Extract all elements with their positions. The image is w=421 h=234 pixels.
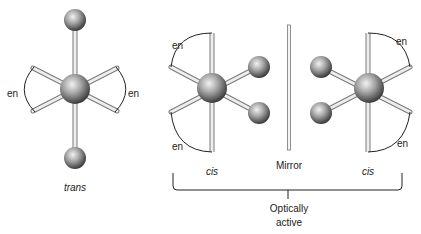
cis-isomer-left: en en cis — [171, 33, 270, 177]
en-label: en — [172, 141, 183, 152]
en-arc-right — [115, 67, 126, 112]
metal-ball — [60, 74, 90, 104]
bracket-label-line2: active — [276, 217, 303, 228]
en-label: en — [128, 88, 139, 99]
ligand-ball-lower — [310, 102, 332, 124]
ligand-ball-bottom — [64, 147, 86, 169]
en-arc-left — [24, 67, 35, 112]
ligand-ball-upper — [248, 56, 270, 78]
bracket-label-line1: Optically — [270, 203, 308, 214]
metal-ball — [197, 73, 227, 103]
mirror-label: Mirror — [276, 160, 303, 171]
diagram-canvas: en en trans en en cis Mirror — [0, 0, 421, 234]
ligand-ball-top — [64, 9, 86, 31]
metal-ball — [354, 73, 384, 103]
isomer-label-cis-left: cis — [206, 166, 218, 177]
optically-active-bracket: Optically active — [173, 173, 402, 228]
en-label: en — [397, 138, 408, 149]
en-label: en — [172, 40, 183, 51]
isomer-label-cis-right: cis — [362, 166, 374, 177]
ligand-ball-lower — [248, 102, 270, 124]
isomer-label-trans: trans — [64, 182, 86, 193]
cis-isomer-right: en en cis — [310, 33, 410, 177]
en-label: en — [396, 36, 407, 47]
mirror: Mirror — [276, 25, 303, 171]
trans-isomer: en en trans — [7, 9, 139, 193]
ligand-ball-upper — [310, 56, 332, 78]
en-label: en — [7, 88, 18, 99]
mirror-plane — [288, 25, 291, 150]
